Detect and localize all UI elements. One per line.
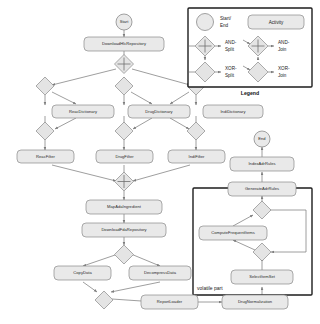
gateway-xor-join-indi[interactable] — [187, 122, 205, 140]
legend-and-join-label-2: Join — [278, 47, 287, 52]
activity-report-loader[interactable]: ReportLoader — [141, 295, 198, 309]
activity-drug-dictionary[interactable]: DrugDictionary — [128, 105, 190, 118]
event-start-label: Start — [120, 19, 130, 24]
gateway-and-split-1[interactable] — [115, 55, 134, 74]
legend-start-end-icon — [197, 14, 214, 31]
activity-index-adr-rules[interactable]: IndexAdrRules — [230, 157, 294, 171]
gateway-xor-join-fda[interactable] — [95, 291, 113, 309]
activity-label: IndiDictionary — [220, 109, 246, 114]
activity-label: GenerateAdrRules — [245, 186, 279, 191]
activity-copy-data[interactable]: CopyData — [54, 266, 111, 280]
legend-and-split-label-2: Split — [225, 47, 235, 52]
activity-label: ReportLoader — [157, 299, 183, 304]
volatile-part-label: volatile part — [197, 285, 223, 291]
activity-label: DrugNormalization — [238, 299, 273, 304]
activity-label: DecompressData — [144, 270, 177, 275]
activity-label: DownloadFdaRepository — [101, 227, 147, 232]
gateway-xor-join-loop[interactable] — [253, 243, 271, 261]
activity-label: DownloadHlcRepository — [102, 41, 147, 46]
legend-xor-join-label-1: XOR- — [278, 66, 290, 71]
activity-generate-adr-rules[interactable]: GenerateAdrRules — [228, 182, 296, 196]
activity-label: DrugDictionary — [145, 109, 173, 114]
activity-label: ReacFilter — [36, 154, 55, 159]
legend-activity-label: Activity — [269, 20, 284, 25]
gateway-and-join-1[interactable] — [115, 172, 134, 191]
activity-label: MapAdaIngredient — [107, 204, 142, 209]
workflow-diagram: volatile part Start End DownloadHlcRepos… — [0, 0, 320, 324]
legend-xor-split-label-2: Split — [225, 73, 235, 78]
event-end[interactable]: End — [254, 131, 270, 147]
legend-start-end-label-1: Start/ — [220, 16, 232, 21]
activity-label: ReacDictionary — [69, 109, 98, 114]
gateway-xor-split-loop[interactable] — [253, 201, 271, 219]
activity-drug-filter[interactable]: DrugFilter — [96, 150, 153, 163]
activity-reac-dictionary[interactable]: ReacDictionary — [52, 105, 114, 118]
activity-indi-dictionary[interactable]: IndiDictionary — [203, 105, 263, 118]
activity-label: CopyData — [73, 270, 92, 275]
legend-and-join-label-1: AND- — [278, 40, 290, 45]
activity-label: SelectItemSet — [249, 274, 276, 279]
legend: Start/ End Activity AND- Split — [188, 8, 312, 96]
gateway-xor-join-reac[interactable] — [36, 122, 54, 140]
gateway-xor-split-drug[interactable] — [115, 77, 133, 95]
activity-label: IndexAdrRules — [248, 161, 275, 166]
activity-compute-frequent-items[interactable]: ComputeFrequentItems — [199, 226, 267, 240]
activity-label: ComputeFrequentItems — [211, 230, 254, 235]
activity-map-ada-ingredient[interactable]: MapAdaIngredient — [86, 200, 162, 214]
activity-decompress-data[interactable]: DecompressData — [129, 266, 191, 280]
diagram-canvas: volatile part Start End DownloadHlcRepos… — [0, 0, 320, 324]
gateway-xor-join-drug[interactable] — [115, 122, 133, 140]
activity-drug-normalization[interactable]: DrugNormalization — [222, 295, 288, 309]
event-start[interactable]: Start — [116, 14, 132, 30]
gateway-xor-split-reac[interactable] — [36, 77, 54, 95]
legend-and-split-label-1: AND- — [225, 40, 237, 45]
activity-label: DrugFilter — [115, 154, 134, 159]
activity-label: IndiFilter — [189, 154, 206, 159]
legend-xor-split-label-1: XOR- — [225, 66, 237, 71]
event-end-label: End — [258, 136, 266, 141]
activity-download-hlc-repository[interactable]: DownloadHlcRepository — [84, 37, 164, 51]
gateway-xor-split-fda[interactable] — [115, 245, 134, 264]
activity-reac-filter[interactable]: ReacFilter — [17, 150, 74, 163]
legend-title: Legend — [241, 90, 259, 96]
activity-download-fda-repository[interactable]: DownloadFdaRepository — [82, 223, 166, 237]
legend-xor-join-label-2: Join — [278, 73, 287, 78]
activity-indi-filter[interactable]: IndiFilter — [168, 150, 225, 163]
legend-start-end-label-2: End — [220, 23, 229, 28]
activity-select-item-set[interactable]: SelectItemSet — [231, 270, 293, 284]
